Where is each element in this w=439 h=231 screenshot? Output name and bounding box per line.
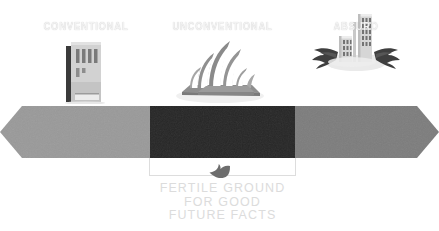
caption-line-2: FOR GOOD [130, 196, 315, 210]
diagram-canvas: CONVENTIONAL UNCONVENTIONAL ABSURD FERTI… [0, 0, 439, 231]
caption-line-3: FUTURE FACTS [130, 209, 315, 223]
caption-line-1: FERTILE GROUND [130, 182, 315, 196]
segment-label-absurd: ABSURD [304, 0, 409, 52]
segment-label-conventional: CONVENTIONAL [31, 0, 141, 52]
segment-label-unconventional: UNCONVENTIONAL [160, 0, 285, 52]
spectrum-arrow-bar [0, 106, 439, 158]
callout-caption: FERTILE GROUND FOR GOOD FUTURE FACTS [130, 182, 315, 223]
thumbs-up-pointer-icon [209, 163, 231, 181]
